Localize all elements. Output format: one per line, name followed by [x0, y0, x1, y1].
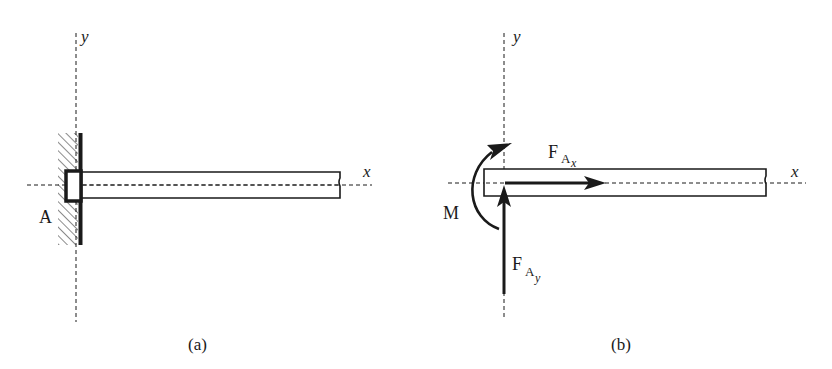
- force-ay-arrow: [497, 185, 511, 294]
- caption-b: (b): [611, 335, 631, 354]
- x-axis-label: x: [790, 162, 799, 181]
- moment-label: M: [443, 203, 459, 223]
- figure-canvas: y x A (a) y x M F: [0, 0, 832, 369]
- svg-text:A: A: [525, 264, 535, 279]
- svg-text:F: F: [548, 142, 558, 162]
- svg-text:A: A: [561, 151, 571, 166]
- support-label-a: A: [39, 207, 52, 227]
- force-ay-label: F A y: [512, 254, 541, 285]
- y-axis-label: y: [79, 27, 89, 46]
- svg-text:F: F: [512, 254, 522, 274]
- force-ax-label: F A x: [548, 142, 577, 170]
- y-axis-label: y: [511, 27, 521, 46]
- x-axis-label: x: [362, 162, 371, 181]
- svg-text:x: x: [570, 156, 577, 170]
- fixed-support-bracket: [66, 171, 81, 201]
- caption-a: (a): [188, 335, 207, 354]
- panel-a: y x A (a): [27, 27, 372, 354]
- svg-text:y: y: [534, 271, 541, 285]
- panel-b: y x M F A x F A y (b): [443, 27, 806, 354]
